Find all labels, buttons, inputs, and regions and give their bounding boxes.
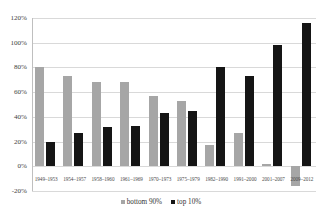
x-tick-label: 2009–2012: [288, 173, 316, 187]
bar-top-10: [74, 133, 83, 166]
gridline-neg20: [32, 191, 316, 192]
bar-top-10: [160, 113, 169, 166]
bar-top-10: [46, 142, 55, 167]
bar-groups: [32, 18, 316, 191]
x-tick-label: 1975–1979: [174, 173, 202, 187]
bar-group: [174, 18, 202, 191]
legend-label: bottom 90%: [127, 198, 162, 206]
y-tick-label: 40%: [14, 113, 27, 120]
bar-bottom-90: [177, 101, 186, 166]
y-tick-label: 120%: [10, 15, 27, 22]
x-tick-label: 1991–2000: [231, 173, 259, 187]
bar-bottom-90: [149, 96, 158, 166]
bar-group: [202, 18, 230, 191]
y-tick-label: 60%: [14, 89, 27, 96]
bar-group: [231, 18, 259, 191]
y-axis-labels: 120%100%80%60%40%20%0%-20%: [0, 18, 30, 191]
bar-group: [89, 18, 117, 191]
bar-bottom-90: [205, 145, 214, 166]
x-tick-label: 1982–1990: [202, 173, 230, 187]
bar-group: [288, 18, 316, 191]
bar-group: [60, 18, 88, 191]
x-axis-labels: 1949–19531954–19571958–19601961–19691970…: [32, 173, 316, 187]
bar-top-10: [245, 76, 254, 166]
y-tick-label: 80%: [14, 64, 27, 71]
x-tick-label: 1970–1973: [146, 173, 174, 187]
bar-group: [117, 18, 145, 191]
bar-top-10: [216, 67, 225, 166]
bar-bottom-90: [63, 76, 72, 166]
legend-item: top 10%: [171, 198, 201, 206]
bar-top-10: [302, 23, 311, 166]
legend-swatch-icon: [121, 200, 125, 204]
legend-swatch-icon: [171, 200, 175, 204]
bar-chart: 120%100%80%60%40%20%0%-20% 1949–19531954…: [0, 0, 322, 214]
bar-top-10: [131, 126, 140, 167]
x-tick-label: 1949–1953: [32, 173, 60, 187]
bar-bottom-90: [120, 82, 129, 166]
legend-label: top 10%: [177, 198, 201, 206]
bar-top-10: [273, 45, 282, 166]
y-tick-label: -20%: [12, 188, 27, 195]
legend-item: bottom 90%: [121, 198, 162, 206]
bar-group: [259, 18, 287, 191]
y-tick-label: 20%: [14, 138, 27, 145]
x-tick-label: 2001–2007: [259, 173, 287, 187]
bar-group: [32, 18, 60, 191]
bar-top-10: [103, 127, 112, 167]
plot-area: [32, 18, 316, 191]
bar-bottom-90: [234, 133, 243, 166]
bar-bottom-90: [35, 67, 44, 166]
bar-top-10: [188, 111, 197, 167]
x-tick-label: 1958–1960: [89, 173, 117, 187]
bar-group: [146, 18, 174, 191]
bar-bottom-90: [92, 82, 101, 166]
x-tick-label: 1961–1969: [117, 173, 145, 187]
y-tick-label: 100%: [10, 39, 27, 46]
chart-legend: bottom 90%top 10%: [0, 198, 322, 206]
y-tick-label: 0%: [18, 163, 27, 170]
bar-bottom-90: [262, 164, 271, 166]
x-tick-label: 1954–1957: [60, 173, 88, 187]
